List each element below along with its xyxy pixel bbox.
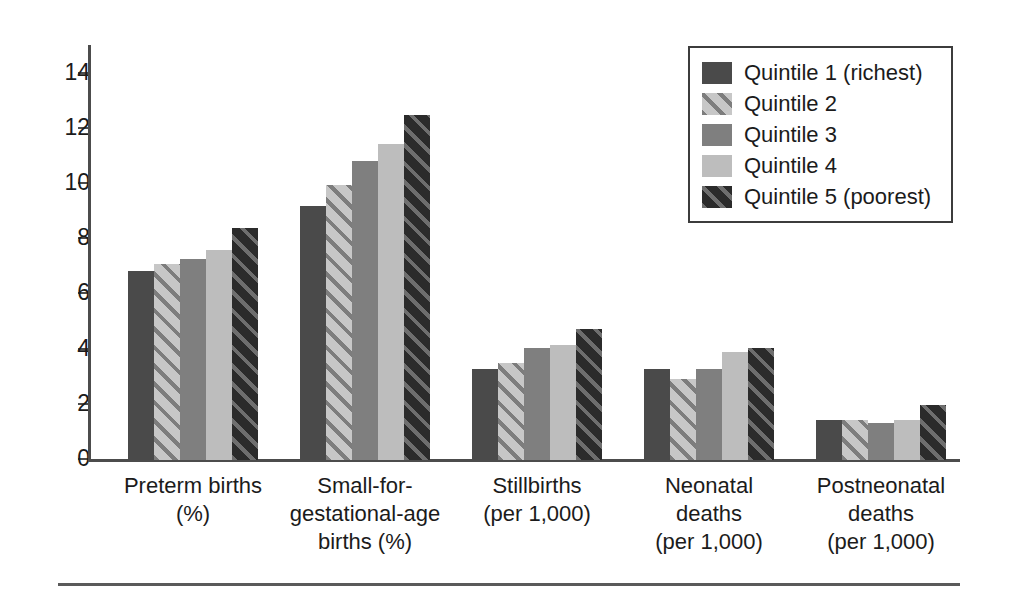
legend-item-label: Quintile 1 (richest) <box>744 62 923 84</box>
bar <box>644 369 670 460</box>
legend-item-label: Quintile 4 <box>744 155 837 177</box>
x-axis-category-label: Stillbirths(per 1,000) <box>437 472 637 528</box>
x-axis-category-label: Postneonataldeaths(per 1,000) <box>781 472 981 556</box>
category-label-line: deaths <box>781 500 981 528</box>
y-axis-tick-label: 14 <box>44 61 90 84</box>
legend-item-label: Quintile 3 <box>744 124 837 146</box>
bar <box>404 115 430 460</box>
category-label-line: births (%) <box>265 528 465 556</box>
bar <box>498 363 524 460</box>
bar <box>842 420 868 460</box>
bar <box>894 420 920 460</box>
y-axis-tick-label: 8 <box>44 226 90 249</box>
y-axis-tick-label: 10 <box>44 171 90 194</box>
category-label-line: (per 1,000) <box>437 500 637 528</box>
category-label-line: gestational-age <box>265 500 465 528</box>
bar-group <box>300 45 430 460</box>
bar <box>748 348 774 460</box>
legend-item: Quintile 2 <box>702 88 941 119</box>
y-axis-tick-label: 6 <box>44 281 90 304</box>
legend-swatch-icon <box>702 155 732 177</box>
bar <box>128 271 154 460</box>
bar <box>696 369 722 460</box>
category-label-line: Postneonatal <box>781 472 981 500</box>
category-label-line: Stillbirths <box>437 472 637 500</box>
legend-box: Quintile 1 (richest)Quintile 2Quintile 3… <box>688 46 953 223</box>
legend-item: Quintile 1 (richest) <box>702 57 941 88</box>
legend-swatch-icon <box>702 93 732 115</box>
bar <box>920 405 946 460</box>
y-axis-tick-label: 12 <box>44 116 90 139</box>
bar <box>180 259 206 460</box>
bar <box>326 185 352 460</box>
category-label-line: (per 1,000) <box>781 528 981 556</box>
bar <box>300 206 326 460</box>
x-axis-category-label: Neonataldeaths(per 1,000) <box>609 472 809 556</box>
bar <box>816 420 842 460</box>
chart-figure: 02468101214 Preterm births(%)Small-for-g… <box>0 0 1014 598</box>
legend-item-label: Quintile 5 (poorest) <box>744 186 931 208</box>
bar-group <box>128 45 258 460</box>
x-axis-category-label: Preterm births(%) <box>93 472 293 528</box>
legend-item-label: Quintile 2 <box>744 93 837 115</box>
legend-swatch-icon <box>702 124 732 146</box>
y-axis-tick-label: 0 <box>44 447 90 470</box>
category-label-line: (%) <box>93 500 293 528</box>
legend-swatch-icon <box>702 186 732 208</box>
bar <box>576 329 602 460</box>
bar <box>206 250 232 460</box>
bar <box>524 348 550 460</box>
bar <box>670 379 696 460</box>
y-axis-tick-label: 2 <box>44 392 90 415</box>
bottom-horizontal-rule <box>58 583 960 586</box>
y-axis-tick-label: 4 <box>44 337 90 360</box>
category-label-line: Preterm births <box>93 472 293 500</box>
bar <box>868 423 894 460</box>
y-axis-tick-group: 02468101214 <box>0 0 90 598</box>
bar <box>154 264 180 460</box>
bar <box>472 369 498 460</box>
bar <box>352 161 378 460</box>
category-label-line: Small-for- <box>265 472 465 500</box>
legend-item: Quintile 3 <box>702 119 941 150</box>
category-label-line: deaths <box>609 500 809 528</box>
legend-swatch-icon <box>702 62 732 84</box>
x-axis-category-label: Small-for-gestational-agebirths (%) <box>265 472 465 556</box>
category-label-line: (per 1,000) <box>609 528 809 556</box>
legend-item: Quintile 4 <box>702 150 941 181</box>
bar <box>722 352 748 460</box>
bar <box>232 228 258 460</box>
bar-group <box>472 45 602 460</box>
legend-item: Quintile 5 (poorest) <box>702 181 941 212</box>
category-label-line: Neonatal <box>609 472 809 500</box>
bar <box>378 144 404 460</box>
bar <box>550 345 576 460</box>
